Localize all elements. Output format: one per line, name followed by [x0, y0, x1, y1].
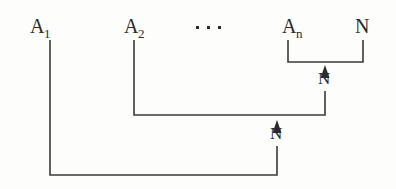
node-label-an-base: A — [282, 15, 297, 37]
node-label-an-subscript: n — [296, 26, 303, 41]
ellipsis-dot-2 — [207, 26, 210, 29]
edge-label-n-inner: N — [318, 69, 330, 88]
diagram-canvas: A 1 A 2 A n N N N — [0, 0, 396, 189]
ellipsis-dot-3 — [218, 26, 221, 29]
node-label-a1-subscript: 1 — [44, 26, 51, 41]
ellipsis — [196, 26, 221, 29]
node-label-n-top: N — [355, 15, 369, 37]
connector-a1 — [50, 40, 277, 175]
node-label-a1-base: A — [30, 15, 45, 37]
node-group-a1: A 1 — [30, 15, 51, 41]
node-label-a2-base: A — [124, 15, 139, 37]
connector-bracket-an-n — [288, 40, 363, 62]
node-group-n-top: N — [355, 15, 369, 37]
ellipsis-dot-1 — [196, 26, 199, 29]
connector-a2 — [134, 40, 325, 115]
node-group-an: A n — [282, 15, 303, 41]
node-label-a2-subscript: 2 — [138, 26, 145, 41]
diagram-svg: A 1 A 2 A n N N N — [0, 0, 396, 189]
node-group-a2: A 2 — [124, 15, 145, 41]
edge-label-n-outer: N — [270, 124, 282, 143]
